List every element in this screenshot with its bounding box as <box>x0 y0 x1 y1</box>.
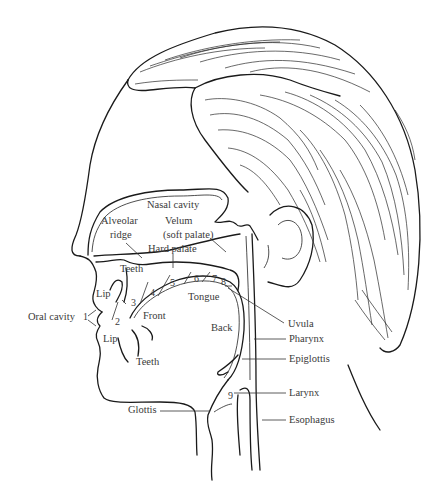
place-number-5: 5 <box>170 278 175 288</box>
place-number-8: 8 <box>221 277 226 287</box>
place-number-1: 1 <box>83 312 88 322</box>
place-number-2: 2 <box>115 317 120 327</box>
place-number-4: 4 <box>150 288 155 298</box>
label-epiglottis: Epiglottis <box>289 354 330 365</box>
place-number-7: 7 <box>212 274 217 284</box>
label-pharynx: Pharynx <box>289 334 324 345</box>
place-number-6: 6 <box>194 274 199 284</box>
place-number-3: 3 <box>131 298 136 308</box>
label-glottis: Glottis <box>128 405 157 416</box>
label-uvula: Uvula <box>288 319 314 330</box>
label-oral-cavity: Oral cavity <box>28 312 75 323</box>
label-lip-upper: Lip <box>96 289 111 300</box>
head-illustration <box>0 0 443 495</box>
label-nasal-cavity: Nasal cavity <box>147 200 199 211</box>
face-profile <box>72 80 380 455</box>
hair-drawing <box>128 27 420 352</box>
label-back: Back <box>211 323 233 334</box>
label-teeth-upper: Teeth <box>120 264 143 275</box>
label-teeth-lower: Teeth <box>136 357 159 368</box>
place-number-9: 9 <box>228 391 233 401</box>
label-front: Front <box>143 311 166 322</box>
label-lip-lower: Lip <box>103 334 118 345</box>
vocal-tract-diagram: Nasal cavity Alveolar ridge Velum (soft … <box>0 0 443 495</box>
label-velum: Velum <box>165 216 192 227</box>
label-larynx: Larynx <box>289 388 319 399</box>
label-hard-palate: Hard palate <box>148 244 197 255</box>
label-soft-palate: (soft palate) <box>163 230 213 241</box>
leader-lines <box>88 238 286 420</box>
label-esophagus: Esophagus <box>289 415 335 426</box>
label-ridge: ridge <box>110 230 132 241</box>
label-alveolar: Alveolar <box>101 216 138 227</box>
label-tongue: Tongue <box>188 292 219 303</box>
